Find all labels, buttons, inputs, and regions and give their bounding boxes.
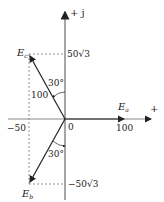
angle-bottom-label: 30°: [48, 149, 64, 159]
imag-axis-label: + j: [70, 7, 85, 18]
magnitude-label: 100: [31, 90, 48, 100]
tick-x-neg: −50: [7, 123, 26, 133]
phasor-diagram: + j + 0 50√3 −50√3 100 −50 Ea Ec Eb 100 …: [0, 0, 164, 202]
angle-arc-top: [53, 92, 65, 97]
phasor-a-label: Ea: [117, 101, 129, 113]
angle-top-label: 30°: [48, 78, 64, 88]
tick-y-neg: −50√3: [68, 179, 99, 189]
tick-x-pos: 100: [116, 123, 133, 133]
angle-arc-bottom: [53, 141, 65, 146]
phasor-b-label: Eb: [21, 188, 33, 200]
phasor-c-label: Ec: [16, 47, 28, 59]
real-axis-label: +: [150, 103, 158, 114]
origin-label: 0: [68, 122, 74, 132]
tick-y-pos: 50√3: [67, 49, 90, 59]
